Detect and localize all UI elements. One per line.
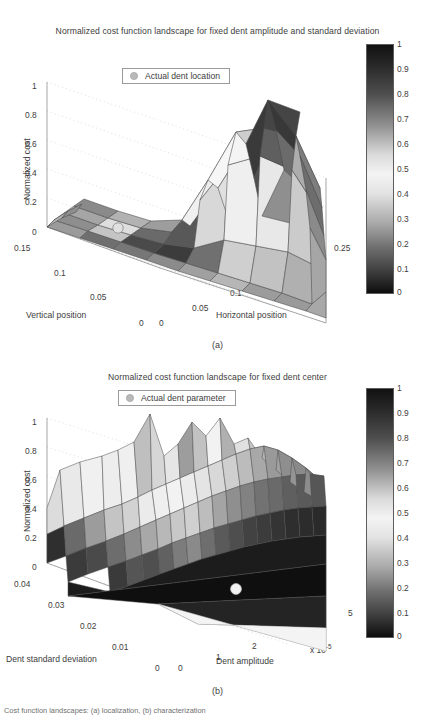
- figure-a-ytick-0: 0: [159, 318, 164, 328]
- figure-a: Normalized cost function landscape for f…: [0, 0, 435, 360]
- figure-b: Normalized cost function landscape for f…: [0, 360, 435, 720]
- figure-a-cbtick-8: 0.2: [397, 239, 409, 249]
- figure-b-cbtick-5: 0.5: [397, 508, 409, 518]
- figure-b-title: Normalized cost function landscape for f…: [0, 372, 435, 382]
- figure-b-colorbar: 1 0.9 0.8 0.7 0.6 0.5 0.4 0.3 0.2 0.1 0: [366, 388, 426, 638]
- figure-a-xaxis-title: Vertical position: [26, 310, 86, 320]
- figure-a-colorbar-gradient: [366, 44, 394, 294]
- figure-bottom-caption: Cost function landscapes: (a) localizati…: [0, 706, 435, 715]
- figure-b-subcaption: (b): [0, 686, 435, 696]
- figure-a-cbtick-10: 0: [397, 287, 402, 297]
- figure-b-cbtick-9: 0.1: [397, 608, 409, 618]
- figure-b-cbtick-10: 0: [397, 631, 402, 641]
- figure-b-cbtick-2: 0.8: [397, 433, 409, 443]
- figure-b-colorbar-gradient: [366, 388, 394, 638]
- figure-b-cbtick-4: 0.6: [397, 483, 409, 493]
- figure-a-cbtick-1: 0.9: [397, 64, 409, 74]
- figure-b-xaxis-title: Dent standard deviation: [6, 654, 97, 664]
- figure-a-cbtick-0: 1: [397, 39, 402, 49]
- figure-a-yaxis-title: Horizontal position: [216, 310, 287, 320]
- figure-a-xtick-3: 0: [139, 318, 144, 328]
- figure-a-cbtick-6: 0.4: [397, 189, 409, 199]
- figure-a-cbtick-2: 0.8: [397, 89, 409, 99]
- figure-a-cbtick-5: 0.5: [397, 164, 409, 174]
- figure-a-cbtick-7: 0.3: [397, 214, 409, 224]
- figure-b-dent-parameter-marker: [231, 584, 242, 595]
- figure-a-cbtick-3: 0.7: [397, 114, 409, 124]
- figure-a-surface-plot: [10, 60, 360, 310]
- figure-a-cbtick-9: 0.1: [397, 264, 409, 274]
- figure-a-subcaption: (a): [0, 340, 435, 350]
- figure-b-ytick-0: 0: [178, 663, 183, 673]
- figure-a-title: Normalized cost function landscape for f…: [0, 26, 435, 36]
- figure-b-cbtick-8: 0.2: [397, 583, 409, 593]
- figure-b-cbtick-6: 0.4: [397, 533, 409, 543]
- figure-a-dent-location-marker: [113, 223, 123, 233]
- figure-a-colorbar: 1 0.9 0.8 0.7 0.6 0.5 0.4 0.3 0.2 0.1 0: [366, 44, 426, 294]
- figure-b-surface-plot: [10, 396, 360, 651]
- figure-b-cbtick-3: 0.7: [397, 458, 409, 468]
- figure-b-cbtick-0: 1: [397, 383, 402, 393]
- figure-b-yaxis-title: Dent amplitude: [216, 656, 274, 666]
- figure-b-xtick-4: 0: [155, 663, 160, 673]
- figure-b-cbtick-7: 0.3: [397, 558, 409, 568]
- figure-a-cbtick-4: 0.6: [397, 139, 409, 149]
- figure-b-cbtick-1: 0.9: [397, 408, 409, 418]
